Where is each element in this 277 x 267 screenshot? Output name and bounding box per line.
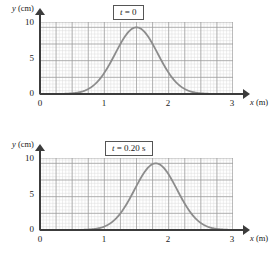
x-tick-1-t020: 1: [96, 235, 112, 244]
plot-area-t020: [40, 158, 233, 230]
x-tick-2-t020: 2: [160, 235, 176, 244]
y-axis-arrow-t0: [35, 8, 45, 15]
y-axis-label-unit-t020: (cm): [16, 139, 34, 149]
panel-title-t0-rest: = 0: [123, 7, 137, 17]
x-axis-arrow-t0: [243, 89, 250, 99]
x-axis-line-t0: [40, 93, 245, 95]
y-tick-0-t0: 0: [14, 89, 34, 98]
pulse-curve-t020: [40, 158, 233, 230]
x-tick-3-t020: 3: [224, 235, 240, 244]
x-axis-label-unit-t020: (m): [254, 233, 268, 243]
y-axis-label-unit-t0: (cm): [16, 3, 34, 13]
y-axis-line-t020: [39, 150, 41, 230]
panel-title-t020-rest: = 0.20 s: [115, 143, 146, 153]
x-axis-arrow-t020: [243, 225, 250, 235]
plot-area-t0: [40, 22, 233, 94]
x-tick-2-t0: 2: [160, 99, 176, 108]
y-tick-0-t020: 0: [14, 225, 34, 234]
pulse-curve-t0: [40, 22, 233, 94]
y-tick-10-t0: 10: [14, 18, 34, 27]
panel-t020: t = 0.20 s 10 5 0 0 1 2 3 y (cm) x (m): [0, 133, 277, 266]
y-tick-5-t0: 5: [14, 54, 34, 63]
y-tick-10-t020: 10: [14, 154, 34, 163]
y-axis-label-t0: y (cm): [12, 4, 34, 13]
y-tick-5-t020: 5: [14, 190, 34, 199]
x-tick-1-t0: 1: [96, 99, 112, 108]
y-axis-label-t020: y (cm): [12, 140, 34, 149]
x-axis-label-t020: x (m): [250, 234, 268, 243]
x-tick-3-t0: 3: [224, 99, 240, 108]
x-axis-label-t0: x (m): [250, 98, 268, 107]
panel-t0: t = 0 10 5 0 0 1 2 3 y (cm) x (m): [0, 0, 277, 133]
y-axis-line-t0: [39, 14, 41, 94]
x-tick-0-t020: 0: [32, 235, 48, 244]
x-axis-label-unit-t0: (m): [254, 97, 268, 107]
panel-title-t0: t = 0: [113, 5, 144, 20]
y-axis-arrow-t020: [35, 144, 45, 151]
wave-pulse-figure: t = 0 10 5 0 0 1 2 3 y (cm) x (m) t = 0.…: [0, 0, 277, 267]
panel-title-t020: t = 0.20 s: [105, 141, 153, 156]
x-tick-0-t0: 0: [32, 99, 48, 108]
x-axis-line-t020: [40, 229, 245, 231]
